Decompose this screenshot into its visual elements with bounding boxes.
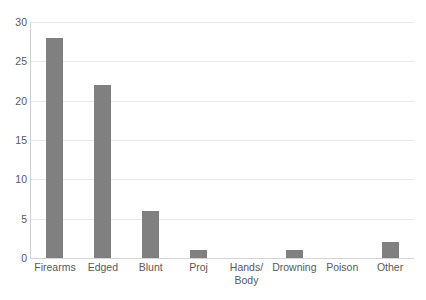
bar[interactable] xyxy=(94,85,111,258)
bar[interactable] xyxy=(382,242,399,258)
y-tick-label: 25 xyxy=(1,56,27,67)
bar[interactable] xyxy=(46,38,63,258)
bar[interactable] xyxy=(190,250,207,258)
x-tick-label: Other xyxy=(359,261,421,274)
axis-baseline xyxy=(31,258,414,259)
y-tick-label: 10 xyxy=(1,174,27,185)
bar[interactable] xyxy=(142,211,159,258)
bar[interactable] xyxy=(286,250,303,258)
y-tick-label: 15 xyxy=(1,135,27,146)
y-tick-label: 20 xyxy=(1,95,27,106)
y-tick-label: 30 xyxy=(1,17,27,28)
x-axis-tick-labels: FirearmsEdgedBluntProjHands/ BodyDrownin… xyxy=(31,261,414,300)
y-axis-tick-labels: 051015202530 xyxy=(0,0,27,300)
bar-chart: 051015202530 FirearmsEdgedBluntProjHands… xyxy=(0,0,426,300)
bars-layer xyxy=(31,22,414,258)
y-tick-label: 5 xyxy=(1,213,27,224)
